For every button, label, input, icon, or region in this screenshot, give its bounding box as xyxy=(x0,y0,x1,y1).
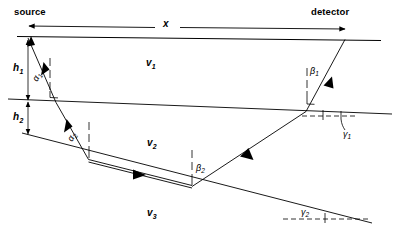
angle-gamma2-label: γ2 xyxy=(301,208,309,217)
h2-subscript: 2 xyxy=(19,117,23,124)
beta1-subscript: 1 xyxy=(315,70,319,77)
beta2-subscript: 2 xyxy=(201,167,205,174)
angle-beta2-label: β2 xyxy=(196,164,205,173)
depth-h1-label: h1 xyxy=(13,63,23,73)
downgoing-ray-layer-1 xyxy=(27,36,56,103)
gamma2-subscript: 2 xyxy=(306,211,310,218)
offset-x-label: x xyxy=(163,19,169,29)
v1-letter: v xyxy=(146,57,152,68)
gamma1-letter: γ xyxy=(343,129,348,139)
depth-h2-label: h2 xyxy=(13,112,23,122)
v1-subscript: 1 xyxy=(152,63,156,70)
ground-surface-line xyxy=(17,37,381,41)
interface-1-line xyxy=(8,99,392,114)
v3-subscript: 3 xyxy=(153,213,157,220)
velocity-v2-label: v2 xyxy=(147,138,156,148)
gamma1-dip-reference xyxy=(302,110,356,130)
interface-2-line xyxy=(22,133,372,223)
v3-letter: v xyxy=(147,207,153,218)
h1-subscript: 1 xyxy=(19,68,23,75)
velocity-v1-label: v1 xyxy=(146,58,155,68)
gamma1-subscript: 1 xyxy=(348,133,352,140)
offset-distance-arrow xyxy=(29,26,345,29)
upgoing-ray-layer-2 xyxy=(192,112,306,187)
angle-beta1-label: β1 xyxy=(310,67,319,76)
v2-subscript: 2 xyxy=(153,143,157,150)
gamma2-dip-reference xyxy=(283,213,370,223)
angle-gamma1-label: γ1 xyxy=(343,130,351,139)
seismic-refraction-figure: source detector x h1 h2 v1 v2 v3 α1 α2 β… xyxy=(0,0,395,240)
detector-label: detector xyxy=(311,7,349,17)
source-label: source xyxy=(14,7,46,17)
figure-canvas xyxy=(0,0,395,240)
gamma2-letter: γ xyxy=(301,207,306,217)
velocity-v3-label: v3 xyxy=(147,208,156,218)
v2-letter: v xyxy=(147,137,153,148)
